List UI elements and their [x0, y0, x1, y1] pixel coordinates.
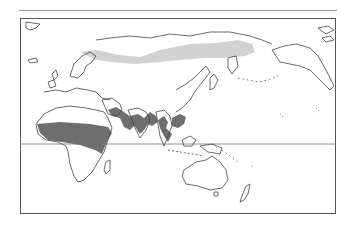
- range-siberia: [80, 40, 255, 64]
- world-map: [0, 0, 356, 228]
- range-indochina: [158, 116, 172, 142]
- range-india: [130, 112, 158, 134]
- range-east-asia: [172, 114, 186, 128]
- range-sahel: [37, 122, 112, 154]
